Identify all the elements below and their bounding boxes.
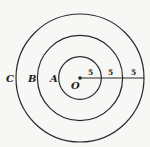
segment-label-1: 5 [88,68,93,77]
label-o: O [71,80,80,91]
segment-label-3: 5 [131,68,136,77]
label-a: A [49,73,58,84]
segment-label-2: 5 [108,68,113,77]
concentric-circles-diagram: 5 5 5 O A B C [0,0,150,147]
label-b: B [27,73,36,84]
label-c: C [6,73,14,84]
